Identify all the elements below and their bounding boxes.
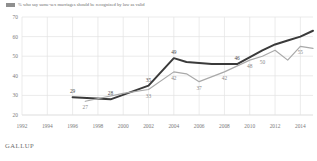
svg-text:33: 33 [146, 93, 152, 99]
legend-line-swatch-icon [6, 3, 15, 7]
svg-text:50: 50 [13, 53, 19, 59]
svg-text:2010: 2010 [244, 123, 255, 129]
svg-text:49: 49 [171, 49, 177, 55]
svg-text:1998: 1998 [93, 123, 104, 129]
svg-text:2000: 2000 [118, 123, 129, 129]
svg-text:35: 35 [146, 77, 152, 83]
svg-text:42: 42 [171, 75, 177, 81]
svg-text:50: 50 [260, 59, 266, 65]
svg-text:2006: 2006 [194, 123, 205, 129]
svg-text:28: 28 [108, 90, 114, 96]
svg-text:1992: 1992 [17, 123, 28, 129]
svg-text:29: 29 [70, 88, 76, 94]
svg-text:2008: 2008 [219, 123, 230, 129]
svg-text:46: 46 [234, 55, 240, 61]
legend-label: % who say same-sex marriages should be r… [18, 2, 145, 8]
svg-text:2004: 2004 [168, 123, 179, 129]
svg-text:2012: 2012 [270, 123, 281, 129]
svg-text:55: 55 [298, 49, 304, 55]
chart-container: % who say same-sex marriages should be r… [0, 0, 317, 161]
svg-text:37: 37 [196, 85, 202, 91]
svg-text:70: 70 [13, 14, 19, 20]
svg-text:2002: 2002 [143, 123, 154, 129]
svg-text:27: 27 [83, 104, 89, 110]
svg-text:60: 60 [13, 34, 19, 40]
y-axis-ticks: 203040506070 [13, 14, 19, 118]
svg-text:1996: 1996 [67, 123, 78, 129]
svg-text:2014: 2014 [295, 123, 306, 129]
x-axis-ticks: 1992199419961998200020022004200620082010… [17, 123, 306, 129]
plot-area: 203040506070 199219941996199820002002200… [0, 9, 317, 135]
svg-text:1994: 1994 [42, 123, 53, 129]
chart-legend: % who say same-sex marriages should be r… [6, 0, 145, 9]
svg-text:20: 20 [13, 112, 19, 118]
svg-text:40: 40 [13, 73, 19, 79]
svg-text:42: 42 [222, 75, 228, 81]
line-chart-svg: 203040506070 199219941996199820002002200… [0, 9, 317, 135]
svg-text:30: 30 [13, 92, 19, 98]
svg-text:48: 48 [247, 63, 253, 69]
gallup-brand: GALLUP [5, 142, 34, 149]
